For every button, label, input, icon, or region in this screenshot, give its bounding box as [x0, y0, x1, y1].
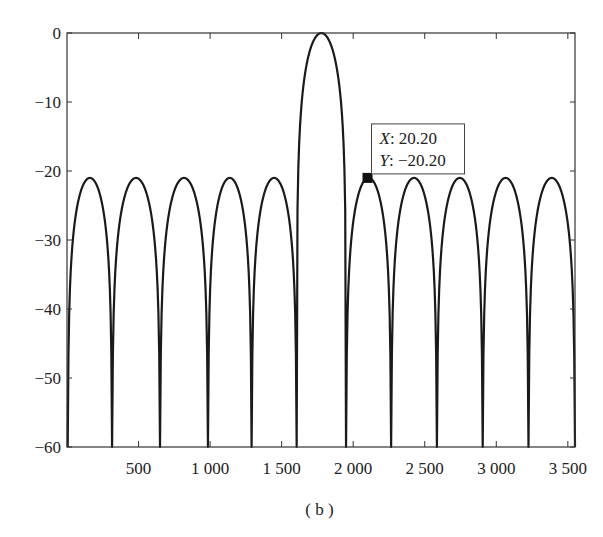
x-tick-label: 3 000	[477, 459, 515, 478]
x-tick-label: 1 500	[263, 459, 301, 478]
figure-caption: ( b )	[0, 500, 603, 520]
pattern-line	[68, 33, 575, 447]
plot-area-frame	[67, 33, 575, 447]
datatip[interactable]: X: 20.20Y: −20.20	[363, 124, 465, 183]
x-tick-label: 2 000	[334, 459, 372, 478]
x-tick-label: 3 500	[549, 459, 587, 478]
y-tick-label: −50	[34, 369, 61, 388]
datatip-x-value: X: 20.20	[379, 129, 438, 148]
x-tick-label: 1 000	[191, 459, 229, 478]
y-tick-label: 0	[53, 24, 62, 43]
y-tick-label: −30	[34, 231, 61, 250]
x-axis: 5001 0001 5002 0002 5003 0003 500	[126, 33, 587, 478]
y-tick-label: −40	[34, 300, 61, 319]
y-tick-label: −60	[34, 438, 61, 457]
y-axis: 0−10−20−30−40−50−60	[34, 24, 575, 457]
beam-pattern-chart: 0−10−20−30−40−50−60 5001 0001 5002 0002 …	[0, 0, 603, 537]
pattern-curve	[68, 33, 575, 447]
datatip-y-value: Y: −20.20	[380, 151, 446, 170]
y-tick-label: −20	[34, 162, 61, 181]
x-tick-label: 2 500	[406, 459, 444, 478]
y-tick-label: −10	[34, 93, 61, 112]
x-tick-label: 500	[126, 459, 152, 478]
